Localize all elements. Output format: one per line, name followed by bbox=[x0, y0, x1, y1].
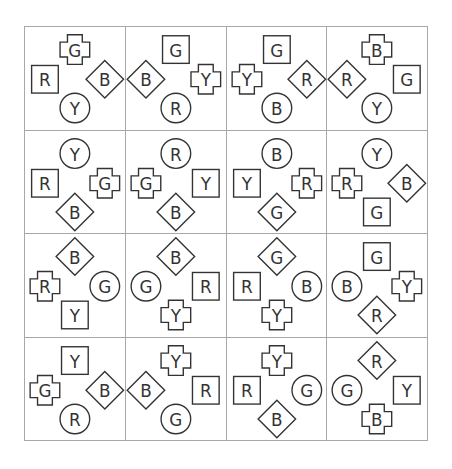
circle-icon: G bbox=[90, 271, 120, 301]
shape-letter: G bbox=[341, 381, 354, 401]
cross-icon: Y bbox=[191, 64, 221, 94]
diamond-icon: R bbox=[328, 61, 366, 98]
circle-icon: R bbox=[161, 138, 191, 168]
shape-letter: B bbox=[371, 409, 383, 429]
grid-cell-r1-c3: GYRB bbox=[227, 27, 328, 131]
shape-letter: B bbox=[371, 41, 383, 61]
shape-letter: G bbox=[169, 409, 182, 429]
shape-letter: B bbox=[271, 99, 283, 119]
diamond-icon: B bbox=[157, 238, 195, 275]
shape-letter: Y bbox=[69, 144, 81, 164]
diamond-icon: B bbox=[127, 371, 165, 408]
shape-letter: R bbox=[300, 174, 312, 194]
shape-letter: R bbox=[241, 381, 253, 401]
grid-cell-r2-c3: BYRG bbox=[227, 131, 328, 235]
shape-letter: G bbox=[270, 41, 283, 61]
circle-icon: Y bbox=[60, 138, 90, 168]
shape-letter: B bbox=[170, 248, 182, 268]
shape-letter: Y bbox=[69, 99, 81, 119]
shape-letter: R bbox=[170, 144, 182, 164]
grid-cell-r4-c4: RGYB bbox=[327, 338, 428, 442]
circle-icon: G bbox=[161, 404, 191, 434]
shape-letter: G bbox=[169, 41, 182, 61]
diamond-icon: B bbox=[86, 371, 124, 408]
diamond-icon: B bbox=[258, 400, 296, 437]
diamond-icon: B bbox=[56, 238, 94, 275]
shape-letter: G bbox=[98, 174, 111, 194]
square-icon: G bbox=[364, 243, 391, 271]
diamond-icon: B bbox=[86, 61, 124, 98]
shape-letter: Y bbox=[401, 277, 413, 297]
square-icon: R bbox=[192, 272, 219, 300]
diamond-icon: B bbox=[388, 164, 426, 201]
cross-icon: R bbox=[332, 168, 362, 198]
shape-letter: R bbox=[39, 174, 51, 194]
shape-letter: B bbox=[271, 409, 283, 429]
square-icon: Y bbox=[62, 301, 89, 329]
shape-letter: B bbox=[341, 277, 353, 297]
shape-letter: Y bbox=[69, 306, 81, 326]
shape-letter: Y bbox=[371, 144, 383, 164]
shape-letter: Y bbox=[240, 174, 252, 194]
shape-letter: B bbox=[301, 277, 313, 297]
shape-letter: G bbox=[270, 202, 283, 222]
shape-letter: R bbox=[371, 306, 383, 326]
shape-letter: B bbox=[401, 174, 413, 194]
square-icon: R bbox=[233, 376, 260, 404]
circle-icon: G bbox=[291, 375, 321, 405]
shape-letter: Y bbox=[169, 306, 181, 326]
square-icon: G bbox=[394, 65, 421, 93]
cross-icon: G bbox=[131, 168, 161, 198]
cross-icon: G bbox=[60, 35, 90, 65]
square-icon: G bbox=[364, 198, 391, 226]
shape-letter: Y bbox=[199, 70, 211, 90]
grid-cell-r4-c3: YRGB bbox=[227, 338, 328, 442]
square-icon: Y bbox=[394, 376, 421, 404]
shape-letter: Y bbox=[69, 351, 81, 371]
circle-icon: G bbox=[131, 271, 161, 301]
grid-cell-r4-c1: YGBR bbox=[25, 338, 126, 442]
diamond-icon: R bbox=[358, 341, 396, 378]
grid-cell-r1-c1: GRBY bbox=[25, 27, 126, 131]
shape-letter: B bbox=[140, 70, 152, 90]
shape-letter: R bbox=[200, 277, 212, 297]
grid-cell-r4-c2: YBRG bbox=[126, 338, 227, 442]
cross-icon: G bbox=[30, 375, 60, 405]
shape-letter: G bbox=[371, 248, 384, 268]
shape-letter: R bbox=[39, 70, 51, 90]
grid-cell-r2-c2: RGYB bbox=[126, 131, 227, 235]
shape-letter: G bbox=[401, 70, 414, 90]
square-icon: G bbox=[263, 36, 290, 64]
cross-icon: Y bbox=[161, 345, 191, 375]
shape-letter: G bbox=[139, 277, 152, 297]
diamond-icon: R bbox=[288, 61, 326, 98]
square-icon: R bbox=[192, 376, 219, 404]
shape-letter: R bbox=[371, 351, 383, 371]
circle-icon: R bbox=[161, 93, 191, 123]
square-icon: G bbox=[162, 36, 189, 64]
shape-letter: B bbox=[271, 144, 283, 164]
grid-cell-r3-c1: BRGY bbox=[25, 234, 126, 338]
square-icon: Y bbox=[192, 169, 219, 197]
grid-cell-r3-c2: BGRY bbox=[126, 234, 227, 338]
circle-icon: G bbox=[332, 375, 362, 405]
shape-letter: G bbox=[300, 381, 313, 401]
shape-letter: R bbox=[200, 381, 212, 401]
circle-icon: B bbox=[332, 271, 362, 301]
grid-cell-r3-c4: GBYR bbox=[327, 234, 428, 338]
shape-letter: Y bbox=[199, 174, 211, 194]
circle-icon: R bbox=[60, 404, 90, 434]
circle-icon: B bbox=[262, 138, 292, 168]
grid-cell-r3-c3: GRBY bbox=[227, 234, 328, 338]
circle-icon: Y bbox=[362, 138, 392, 168]
shape-letter: G bbox=[371, 202, 384, 222]
shape-letter: G bbox=[38, 381, 51, 401]
shape-letter: R bbox=[300, 70, 312, 90]
square-icon: Y bbox=[62, 346, 89, 374]
shape-letter: Y bbox=[169, 351, 181, 371]
shape-letter: R bbox=[341, 70, 353, 90]
diamond-icon: G bbox=[258, 238, 296, 275]
diamond-icon: G bbox=[258, 193, 296, 230]
shape-letter: G bbox=[270, 248, 283, 268]
cross-icon: Y bbox=[161, 300, 191, 330]
